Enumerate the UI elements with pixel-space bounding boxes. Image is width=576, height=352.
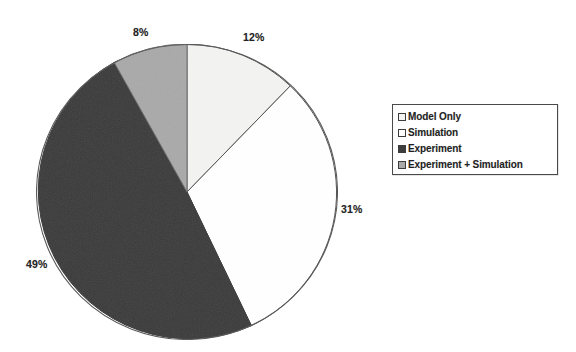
legend-label-experiment: Experiment [408, 143, 461, 154]
legend-swatch-icon-experiment [398, 145, 406, 153]
legend: Model Only Simulation Experiment Experim… [392, 104, 558, 175]
pie-graphic [36, 44, 338, 340]
pie-chart-figure: 8% 12% 31% 49% Model Only Simulation Exp… [0, 0, 576, 352]
legend-label-experiment-simulation: Experiment + Simulation [408, 159, 523, 170]
data-label-simulation: 31% [341, 203, 362, 215]
legend-item-experiment-simulation: Experiment + Simulation [398, 157, 553, 172]
data-label-model-only: 12% [243, 31, 264, 43]
legend-label-simulation: Simulation [408, 127, 458, 138]
legend-swatch-icon-simulation [398, 129, 406, 137]
legend-swatch-icon-model-only [398, 113, 406, 121]
legend-item-experiment: Experiment [398, 141, 553, 156]
legend-swatch-icon-experiment-simulation [398, 161, 406, 169]
pie-svg [36, 44, 338, 340]
legend-label-model-only: Model Only [408, 111, 461, 122]
legend-item-simulation: Simulation [398, 125, 553, 140]
legend-item-model-only: Model Only [398, 109, 553, 124]
data-label-experiment: 49% [26, 258, 47, 270]
data-label-experiment-simulation: 8% [133, 26, 148, 38]
